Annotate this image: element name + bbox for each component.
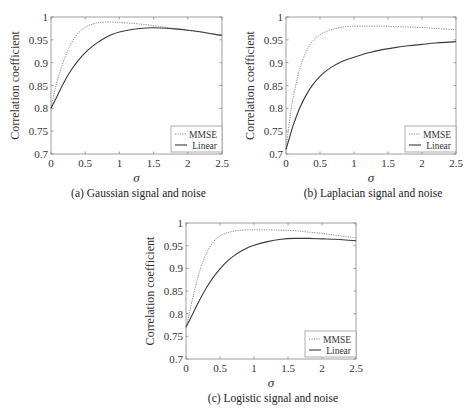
chart-c: 00.511.522.50.70.750.80.850.90.951σCorre… [143, 217, 363, 405]
legend-label-mmse: MMSE [423, 130, 451, 140]
y-tick-label: 1 [278, 11, 284, 23]
y-tick-label: 0.8 [169, 308, 183, 320]
legend-label-linear: Linear [326, 346, 352, 356]
y-tick-label: 0.7 [269, 148, 283, 160]
legend: MMSELinear [305, 331, 356, 357]
legend-label-mmse: MMSE [189, 130, 217, 140]
y-tick-label: 0.8 [269, 102, 283, 114]
x-axis-label: σ [268, 375, 275, 390]
x-tick-label: 1 [351, 157, 357, 169]
series-line-linear [186, 238, 356, 327]
y-tick-label: 0.9 [169, 262, 183, 274]
y-tick-label: 0.7 [169, 353, 183, 365]
y-tick-label: 0.9 [269, 57, 283, 69]
x-tick-label: 0 [283, 157, 289, 169]
legend: MMSELinear [171, 126, 222, 152]
legend-label-linear: Linear [192, 141, 218, 151]
y-tick-label: 0.85 [29, 80, 49, 92]
x-tick-label: 0.5 [213, 362, 227, 374]
y-tick-label: 0.85 [164, 285, 184, 297]
x-tick-label: 1.5 [147, 157, 161, 169]
y-tick-label: 1 [178, 217, 184, 229]
y-tick-label: 0.95 [164, 240, 184, 252]
x-tick-label: 1.5 [381, 157, 395, 169]
x-tick-label: 1 [251, 362, 257, 374]
y-axis-label: Correlation coefficient [243, 30, 257, 139]
figure: 00.511.522.50.70.750.80.850.90.951σCorre… [0, 0, 469, 409]
x-tick-label: 2 [319, 362, 325, 374]
y-tick-label: 1 [43, 11, 49, 23]
x-tick-label: 2 [185, 157, 191, 169]
y-tick-label: 0.85 [264, 80, 284, 92]
x-tick-label: 2.5 [449, 157, 463, 169]
x-tick-label: 0 [48, 157, 54, 169]
x-tick-label: 0.5 [78, 157, 92, 169]
figure-caption: (c) Logistic signal and noise [208, 392, 338, 405]
chart-b: 00.511.522.50.70.750.80.850.90.951σCorre… [243, 11, 463, 200]
figure-caption: (a) Gaussian signal and noise [71, 187, 206, 200]
y-tick-label: 0.9 [34, 57, 48, 69]
x-tick-label: 1 [117, 157, 123, 169]
x-tick-label: 1.5 [281, 362, 295, 374]
x-axis-label: σ [368, 170, 375, 185]
x-tick-label: 0.5 [313, 157, 327, 169]
y-tick-label: 0.8 [34, 102, 48, 114]
x-tick-label: 2.5 [215, 157, 229, 169]
series-line-linear [51, 28, 222, 109]
x-tick-label: 2 [419, 157, 425, 169]
y-tick-label: 0.75 [264, 125, 284, 137]
x-tick-label: 2.5 [349, 362, 363, 374]
y-tick-label: 0.95 [29, 34, 49, 46]
y-tick-label: 0.95 [264, 34, 284, 46]
series-line-mmse [51, 22, 222, 108]
legend: MMSELinear [405, 126, 456, 152]
y-axis-label: Correlation coefficient [143, 236, 157, 345]
x-axis-label: σ [133, 170, 140, 185]
y-tick-label: 0.75 [164, 330, 184, 342]
x-tick-label: 0 [183, 362, 189, 374]
y-axis-label: Correlation coefficient [8, 30, 22, 139]
series-line-mmse [186, 230, 356, 328]
legend-label-linear: Linear [426, 141, 452, 151]
chart-a: 00.511.522.50.70.750.80.850.90.951σCorre… [8, 11, 229, 200]
y-tick-label: 0.75 [29, 125, 49, 137]
y-tick-label: 0.7 [34, 148, 48, 160]
legend-label-mmse: MMSE [323, 335, 351, 345]
figure-caption: (b) Laplacian signal and noise [304, 187, 443, 200]
